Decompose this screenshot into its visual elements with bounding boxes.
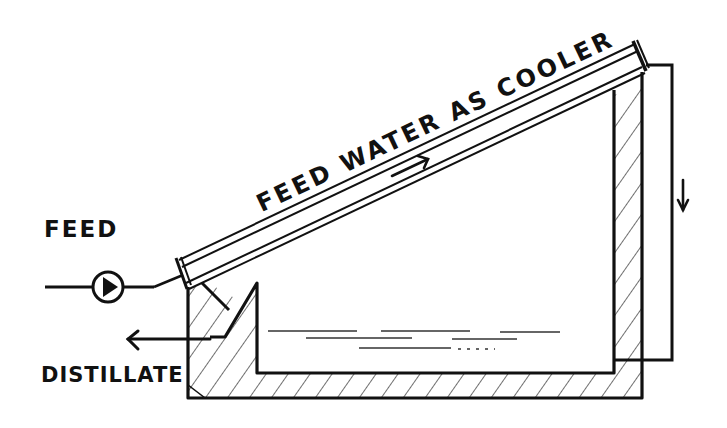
distillate-label: DISTILLATE xyxy=(41,363,184,387)
feed-label: FEED xyxy=(44,216,118,242)
water-surface xyxy=(268,331,560,349)
glass-cover xyxy=(176,40,649,289)
feed-pump-icon xyxy=(93,272,123,302)
return-flow-arrow xyxy=(678,180,688,210)
